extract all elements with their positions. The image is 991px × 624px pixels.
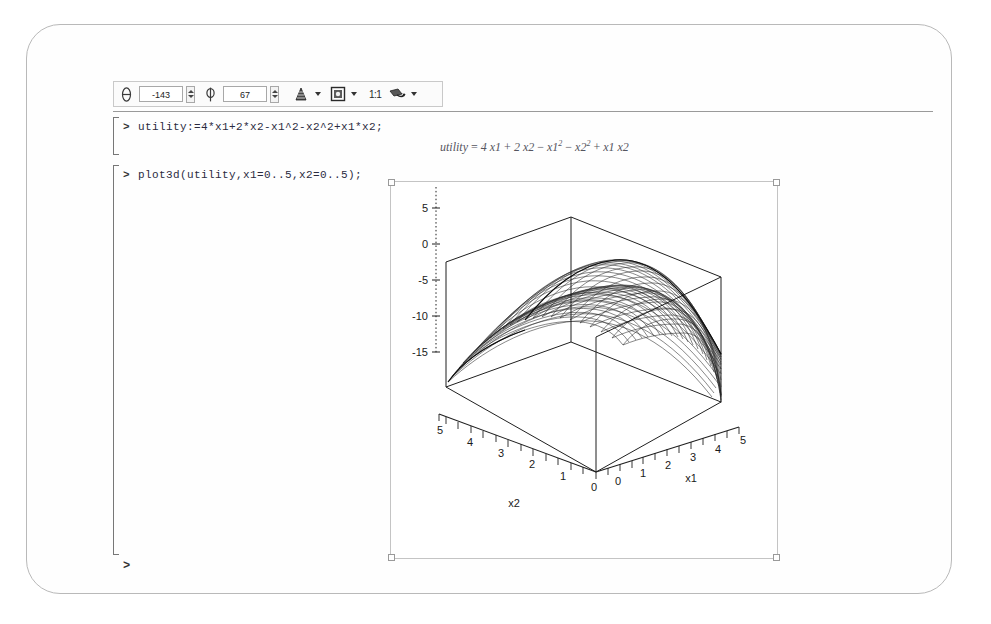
- output-op-4: −: [562, 140, 575, 154]
- plot-axes-chevron-down-icon[interactable]: [351, 92, 357, 96]
- z-tick-label-1: 0: [422, 238, 428, 250]
- maple-worksheet: -143 67: [113, 81, 933, 593]
- plot-axes-icon[interactable]: [328, 84, 348, 104]
- constrain-ratio-button[interactable]: 1:1: [364, 89, 386, 100]
- toolbar-divider: [113, 111, 933, 112]
- plot-manipulator-chevron-down-icon[interactable]: [411, 92, 417, 96]
- output-lhs: utility: [440, 140, 468, 154]
- z-tick-label-2: -5: [418, 274, 428, 286]
- input-text-1: utility:=4*x1+2*x2-x1^2-x2^2+x1*x2;: [138, 121, 383, 133]
- plot-resize-handle-top-left[interactable]: [388, 179, 395, 186]
- plot-bounding-box: [446, 217, 721, 472]
- output-term-4: x2: [575, 140, 586, 154]
- execution-group-bracket-1[interactable]: [113, 117, 119, 155]
- output-op-3: −: [534, 140, 547, 154]
- x1-tick-label-0: 0: [615, 475, 621, 487]
- x2-axis-label: x2: [508, 497, 520, 509]
- input-prompt-2: >: [123, 169, 130, 181]
- x2-tick-label-5: 5: [437, 424, 443, 436]
- theta-value-input[interactable]: -143: [139, 86, 183, 102]
- input-prompt-1: >: [123, 121, 130, 133]
- phi-value-input[interactable]: 67: [223, 86, 267, 102]
- output-op-5: +: [590, 140, 603, 154]
- maple-input-line-2[interactable]: >plot3d(utility,x1=0..5,x2=0..5);: [123, 169, 362, 181]
- x1-axis-tick-labels: 0 1 2 3 4 5: [615, 434, 746, 487]
- plot-toolbar[interactable]: -143 67: [113, 81, 443, 107]
- x1-tick-label-1: 1: [640, 467, 646, 479]
- phi-glyph: [205, 87, 216, 102]
- z-tick-label-4: -15: [412, 346, 428, 358]
- x2-tick-label-4: 4: [467, 436, 473, 448]
- input-text-2: plot3d(utility,x1=0..5,x2=0..5);: [138, 169, 362, 181]
- maple-output-expression-1: utility=4 x1+2 x2−x12−x22+x1 x2: [440, 139, 629, 155]
- x2-tick-label-2: 2: [529, 458, 535, 470]
- execution-group-bracket-2[interactable]: [113, 165, 119, 555]
- z-tick-label-0: 5: [422, 202, 428, 214]
- x2-tick-label-0: 0: [591, 481, 597, 493]
- plot-resize-handle-bottom-left[interactable]: [388, 554, 395, 561]
- maple-final-prompt[interactable]: >: [123, 559, 130, 573]
- plot-style-glyph: [294, 86, 311, 102]
- maple-input-line-1[interactable]: >utility:=4*x1+2*x2-x1^2-x2^2+x1*x2;: [123, 121, 383, 133]
- phi-spinner[interactable]: [270, 86, 279, 103]
- plot-scene: 5 0 -5 -10 -15: [412, 187, 746, 509]
- plot3d-surface-canvas[interactable]: 5 0 -5 -10 -15: [391, 182, 777, 558]
- x2-axis: [439, 414, 596, 472]
- plot-resize-handle-bottom-right[interactable]: [773, 554, 780, 561]
- theta-rotation-icon: [117, 84, 136, 104]
- x1-axis-label: x1: [685, 472, 697, 484]
- plot-style-icon[interactable]: [292, 84, 312, 104]
- phi-rotation-icon: [201, 84, 220, 104]
- scanned-page-frame: -143 67: [26, 24, 952, 594]
- output-op-2: +: [501, 140, 514, 154]
- surface-mesh: [448, 260, 721, 403]
- z-tick-label-3: -10: [412, 310, 428, 322]
- x1-tick-label-3: 3: [690, 451, 696, 463]
- plot-resize-handle-top-right[interactable]: [773, 179, 780, 186]
- output-term-1: 4 x1: [481, 140, 501, 154]
- output-equals: =: [468, 140, 481, 154]
- x2-axis-ticks: [439, 414, 596, 479]
- z-axis-ticks: [432, 208, 440, 352]
- output-term-2: 2 x2: [514, 140, 534, 154]
- x2-tick-label-3: 3: [498, 447, 504, 459]
- plot-manipulator-icon[interactable]: [388, 84, 408, 104]
- x2-tick-label-1: 1: [560, 470, 566, 482]
- plot-axes-glyph: [330, 86, 346, 102]
- plot3d-output-frame[interactable]: 5 0 -5 -10 -15: [390, 181, 778, 559]
- x1-tick-label-4: 4: [715, 443, 721, 455]
- theta-spinner[interactable]: [186, 86, 195, 103]
- x1-tick-label-5: 5: [740, 434, 746, 446]
- plot-style-chevron-down-icon[interactable]: [315, 92, 321, 96]
- output-term-3: x1: [547, 140, 558, 154]
- theta-glyph: [121, 87, 132, 102]
- z-axis-tick-labels: 5 0 -5 -10 -15: [412, 202, 428, 358]
- x1-tick-label-2: 2: [665, 459, 671, 471]
- output-term-5: x1 x2: [603, 140, 629, 154]
- plot-manipulator-glyph: [389, 86, 407, 102]
